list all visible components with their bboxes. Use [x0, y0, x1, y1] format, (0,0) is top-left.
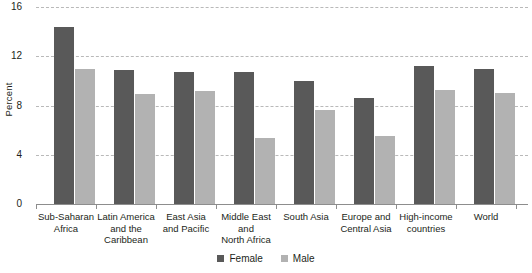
- bar-female: [114, 70, 134, 204]
- bar-group: [465, 7, 525, 204]
- bar-male: [315, 110, 335, 204]
- bar-female: [54, 27, 74, 204]
- bar-female: [234, 72, 254, 204]
- legend-item-male[interactable]: Male: [281, 253, 315, 264]
- bar-group: [225, 7, 285, 204]
- bars-layer: [36, 7, 528, 204]
- bar-female: [414, 66, 434, 204]
- y-tick-label: 16: [0, 2, 22, 12]
- plot-area: 0481216: [36, 7, 528, 204]
- x-tick: [96, 204, 97, 209]
- bar-female: [174, 72, 194, 204]
- y-tick-label: 0: [0, 199, 22, 209]
- y-tick-label: 4: [0, 150, 22, 160]
- bar-female: [294, 81, 314, 204]
- bar-group: [405, 7, 465, 204]
- x-tick: [396, 204, 397, 209]
- bar-female: [474, 69, 494, 204]
- bar-female: [354, 98, 374, 204]
- bar-male: [375, 136, 395, 204]
- x-tick: [216, 204, 217, 209]
- y-axis-title: Percent: [3, 70, 14, 130]
- bar-group: [165, 7, 225, 204]
- bar-male: [195, 91, 215, 204]
- chart-legend: FemaleMale: [0, 253, 532, 264]
- x-axis-label-line: countries: [391, 223, 461, 235]
- x-axis-label-line: North Africa: [211, 234, 281, 246]
- legend-item-female[interactable]: Female: [217, 253, 262, 264]
- x-tick: [456, 204, 457, 209]
- legend-label: Male: [293, 253, 315, 264]
- bar-chart: Percent 0481216 Sub-SaharanAfricaLatin A…: [0, 0, 532, 273]
- legend-swatch-icon: [281, 255, 288, 262]
- bar-group: [45, 7, 105, 204]
- x-axis-label: World: [451, 211, 521, 223]
- bar-group: [105, 7, 165, 204]
- x-axis-label-line: and: [211, 223, 281, 235]
- bar-male: [75, 69, 95, 204]
- x-axis-label-line: Caribbean: [91, 234, 161, 246]
- bar-male: [255, 138, 275, 204]
- x-tick: [516, 204, 517, 209]
- legend-swatch-icon: [217, 255, 224, 262]
- bar-group: [345, 7, 405, 204]
- legend-label: Female: [229, 253, 262, 264]
- bar-group: [285, 7, 345, 204]
- bar-male: [495, 93, 515, 204]
- bar-male: [135, 94, 155, 204]
- x-axis: Sub-SaharanAfricaLatin Americaand theCar…: [36, 204, 528, 250]
- bar-male: [435, 90, 455, 205]
- x-tick: [156, 204, 157, 209]
- x-tick: [276, 204, 277, 209]
- x-tick: [336, 204, 337, 209]
- y-tick-label: 12: [0, 51, 22, 61]
- x-tick: [36, 204, 37, 209]
- y-tick-label: 8: [0, 101, 22, 111]
- x-axis-label-line: World: [451, 211, 521, 223]
